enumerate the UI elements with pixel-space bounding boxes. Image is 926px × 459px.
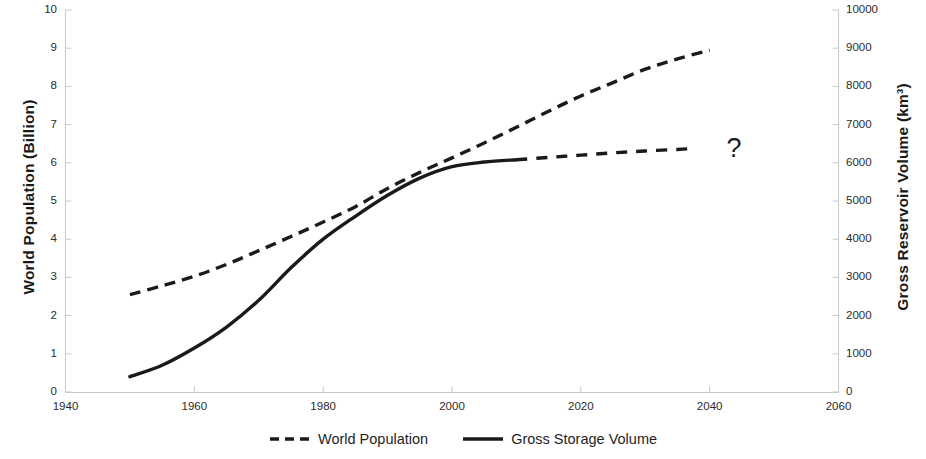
axis-tick-label: 2020 <box>554 400 608 412</box>
axis-tick-label: 1960 <box>167 400 221 412</box>
y-axis-title-right: Gross Reservoir Volume (km³) <box>894 72 912 322</box>
legend-swatch-solid-icon <box>462 433 504 445</box>
axis-tick-label: 3 <box>27 270 57 282</box>
legend-label-gross-storage-volume: Gross Storage Volume <box>511 431 657 447</box>
axis-tick-label: 5 <box>27 194 57 206</box>
axis-lines <box>66 10 839 393</box>
series-line-world-population <box>130 50 710 294</box>
legend-label-world-population: World Population <box>318 431 428 447</box>
axis-tick-label: 5000 <box>846 194 894 206</box>
axis-tick-label: 1980 <box>296 400 350 412</box>
axis-tick-label: 1000 <box>846 347 894 359</box>
axis-tick-label: 2000 <box>425 400 479 412</box>
axis-tick-label: 1940 <box>39 400 93 412</box>
legend-item-world-population: World Population <box>269 431 428 447</box>
axis-tick-label: 1 <box>27 347 57 359</box>
axis-tick-label: 10000 <box>846 3 894 15</box>
axis-tick-label: 4 <box>27 232 57 244</box>
axis-tick-label: 3000 <box>846 270 894 282</box>
left-axis-ticks <box>66 10 72 392</box>
axis-tick-label: 8000 <box>846 79 894 91</box>
axis-tick-label: 6 <box>27 156 57 168</box>
legend-swatch-dashed-icon <box>269 433 311 445</box>
chart-plot-area <box>0 0 926 459</box>
axis-tick-label: 2040 <box>683 400 737 412</box>
axis-tick-label: 9000 <box>846 41 894 53</box>
axis-tick-label: 4000 <box>846 232 894 244</box>
chart-legend: World Population Gross Storage Volume <box>0 431 926 447</box>
axis-tick-label: 6000 <box>846 156 894 168</box>
series-line-gross-storage-volume-projected <box>516 149 690 160</box>
axis-tick-label: 8 <box>27 79 57 91</box>
axis-tick-label: 0 <box>27 385 57 397</box>
axis-tick-label: 0 <box>846 385 894 397</box>
axis-tick-label: 9 <box>27 41 57 53</box>
chart-figure: World Population (Billion) Gross Reservo… <box>0 0 926 459</box>
axis-tick-label: 2 <box>27 309 57 321</box>
x-axis-ticks <box>66 387 839 393</box>
series-line-gross-storage-volume <box>130 160 517 377</box>
axis-tick-label: 7 <box>27 118 57 130</box>
axis-tick-label: 10 <box>27 3 57 15</box>
question-mark-annotation: ? <box>726 133 741 164</box>
legend-item-gross-storage-volume: Gross Storage Volume <box>462 431 657 447</box>
axis-tick-label: 2000 <box>846 309 894 321</box>
axis-tick-label: 2060 <box>812 400 866 412</box>
right-axis-ticks <box>833 10 839 392</box>
axis-tick-label: 7000 <box>846 118 894 130</box>
